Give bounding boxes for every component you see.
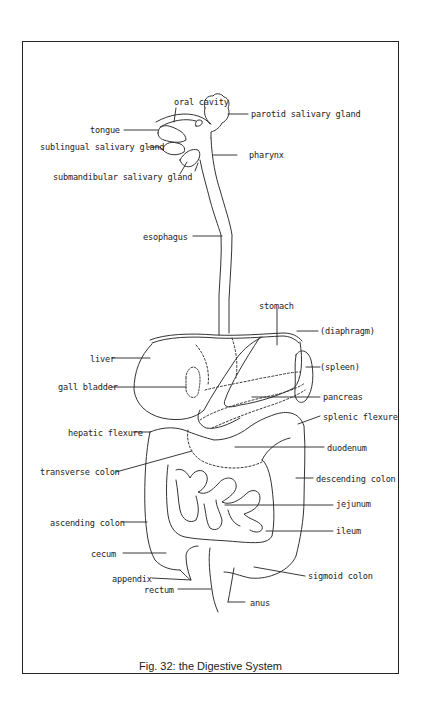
label-tongue: tongue (90, 125, 120, 135)
label-oral-cavity: oral cavity (174, 97, 229, 107)
diaphragm-shape (150, 333, 302, 341)
label-ascending-colon: ascending colon (50, 518, 125, 528)
rectum-shape (209, 548, 218, 612)
gall-bladder-shape (186, 367, 200, 397)
leader-line-transverse-colon (116, 451, 192, 472)
label-hepatic-flexure: hepatic flexure (68, 428, 143, 438)
label-pharynx: pharynx (249, 150, 284, 160)
label-descending-colon: descending colon (316, 474, 396, 484)
label-esophagus: esophagus (143, 232, 188, 242)
label-splenic-flexure: splenic flexure (323, 412, 398, 422)
leader-lines (111, 108, 333, 602)
tongue-shape (158, 126, 186, 143)
label-submandibular-salivary-gland: submandibular salivary gland (53, 172, 192, 182)
label-spleen: (spleen) (320, 362, 360, 372)
label-sigmoid-colon: sigmoid colon (308, 571, 373, 581)
label-gall-bladder: gall bladder (58, 382, 118, 392)
label-duodenum: duodenum (327, 443, 367, 453)
label-sublingual-salivary-gland: sublingual salivary gland (40, 142, 164, 152)
label-ileum: ileum (336, 526, 361, 536)
digestive-system-illustration (0, 0, 424, 715)
small-intestine-shape (167, 460, 274, 543)
label-rectum: rectum (144, 585, 174, 595)
label-pancreas: pancreas (323, 392, 363, 402)
figure-caption: Fig. 32: the Digestive System (22, 660, 399, 672)
esophagus-left-wall (200, 160, 221, 335)
liver-shape (134, 337, 262, 420)
label-diaphragm: (diaphragm) (320, 326, 375, 336)
leader-line-sigmoid-colon (254, 567, 305, 576)
label-jejunum: jejunum (336, 499, 371, 509)
label-stomach: stomach (259, 301, 294, 311)
leader-line-appendix (152, 578, 191, 580)
stomach-shape (224, 337, 301, 407)
label-appendix: appendix (112, 574, 152, 584)
label-transverse-colon: transverse colon (40, 467, 120, 477)
duodenum-shape (198, 410, 240, 428)
label-cecum: cecum (91, 549, 116, 559)
label-parotid-salivary-gland: parotid salivary gland (251, 109, 360, 119)
label-anus: anus (250, 598, 270, 608)
sublingual-gland-shape (163, 142, 185, 154)
colon-shape (150, 413, 305, 579)
label-liver: liver (90, 354, 115, 364)
